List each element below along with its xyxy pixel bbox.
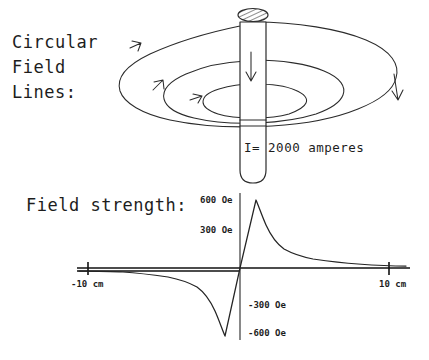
- current-annotation-label: I= 2000 amperes: [244, 140, 364, 155]
- clockwise-arrow-icon-inner: [190, 94, 202, 103]
- y-tick-label-neg300: -300 Oe: [248, 300, 287, 310]
- current-wire: [240, 22, 266, 183]
- circular-field-lines-group: Circular Field Lines: I= 2000 amperes: [12, 9, 403, 184]
- x-tick-label-minus10: -10 cm: [71, 279, 104, 289]
- y-tick-label-300: 300 Oe: [200, 225, 233, 235]
- clockwise-arrow-icon-middle: [153, 80, 164, 90]
- field-strength-label: Field strength:: [26, 195, 187, 215]
- hatched-ellipse-icon: [238, 9, 268, 22]
- field-curve-positive-branch: [240, 200, 406, 268]
- circular-field-lines-label-3: Lines:: [12, 82, 76, 102]
- clockwise-arrow-icon-right: [392, 74, 403, 100]
- clockwise-arrow-icon-outer: [130, 41, 141, 51]
- y-tick-label-neg600: -600 Oe: [248, 328, 287, 338]
- x-tick-label-plus10: 10 cm: [379, 279, 407, 289]
- y-tick-label-600: 600 Oe: [200, 195, 233, 205]
- field-strength-chart: Field strength: 600 Oe 300 Oe -300 Oe -6…: [26, 193, 410, 340]
- circular-field-lines-label-1: Circular: [12, 32, 98, 52]
- circular-field-lines-label-2: Field: [12, 57, 66, 77]
- magnetic-field-figure: Circular Field Lines: I= 2000 amperes Fi…: [0, 0, 429, 360]
